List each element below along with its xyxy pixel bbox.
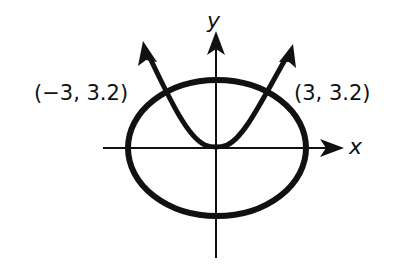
- graph: [0, 0, 408, 272]
- intersection-label-right: (3, 3.2): [294, 83, 371, 104]
- y-axis-label: y: [207, 10, 220, 32]
- x-axis-label: x: [349, 136, 362, 158]
- intersection-label-left: (−3, 3.2): [34, 83, 128, 104]
